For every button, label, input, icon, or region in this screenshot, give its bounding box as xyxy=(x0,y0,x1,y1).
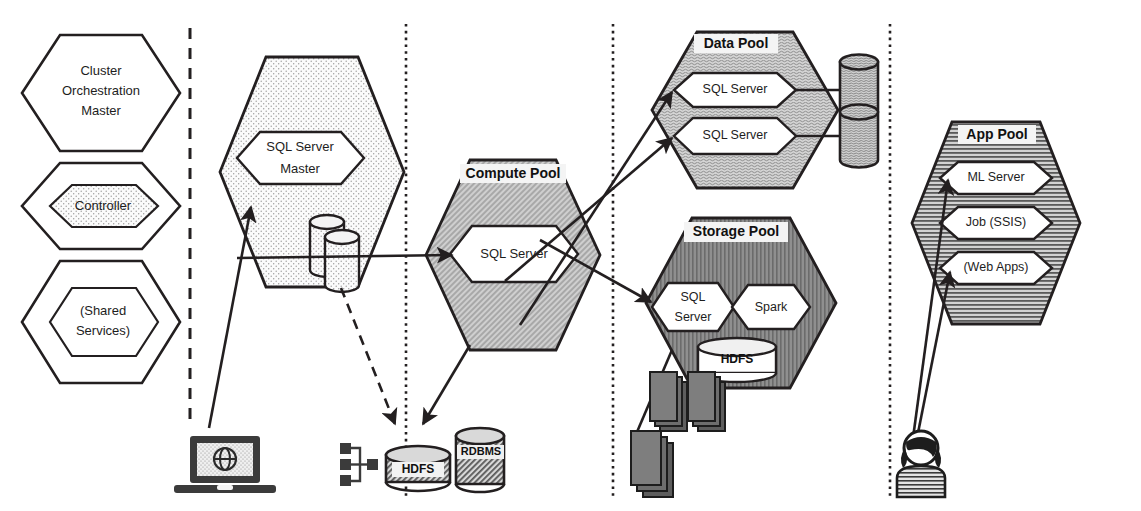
sql-server-master-label-2: Master xyxy=(280,161,320,176)
data-sql-server-2-label: SQL Server xyxy=(703,128,768,142)
network-tree-icon[interactable] xyxy=(340,443,378,486)
server-stack-1[interactable] xyxy=(650,372,687,431)
connection-compute-to-external xyxy=(423,345,470,424)
rdbms-external-label: RDBMS xyxy=(461,445,501,457)
data-sql-server-1-label: SQL Server xyxy=(703,82,768,96)
sidebar-item-controller[interactable]: Controller xyxy=(22,163,180,249)
cluster-orchestration-master-label-2: Orchestration xyxy=(62,83,140,98)
cluster-orchestration-master-label-3: Master xyxy=(81,103,121,118)
hdfs-external-cylinder[interactable]: HDFS xyxy=(386,446,450,491)
storage-pool-title: Storage Pool xyxy=(693,223,779,239)
sql-server-master-label-1: SQL Server xyxy=(266,139,334,154)
controller-label: Controller xyxy=(75,198,132,213)
cluster-orchestration-master-label-1: Cluster xyxy=(80,63,122,78)
connection-laptop-to-master xyxy=(209,207,251,428)
data-pool-title: Data Pool xyxy=(704,35,769,51)
shared-services-label-2: Services) xyxy=(76,323,130,338)
compute-pool-title: Compute Pool xyxy=(466,165,561,181)
connection-master-to-external-store xyxy=(341,288,395,424)
architecture-diagram: Cluster Orchestration Master Controller … xyxy=(0,0,1141,511)
data-cylinder-2 xyxy=(840,105,878,168)
app-pool[interactable]: App Pool ML Server Job (SSIS) (Web Apps) xyxy=(912,122,1080,324)
storage-sql-server-label-1: SQL xyxy=(680,290,705,304)
rdbms-external-cylinder[interactable]: RDBMS xyxy=(456,428,504,492)
data-pool[interactable]: Data Pool SQL Server SQL Server xyxy=(652,32,838,188)
web-apps-label: (Web Apps) xyxy=(963,260,1028,274)
job-ssis-label: Job (SSIS) xyxy=(966,215,1026,229)
ml-server-label: ML Server xyxy=(967,170,1024,184)
hdfs-external-label: HDFS xyxy=(402,462,435,476)
storage-sql-server-label-2: Server xyxy=(675,310,712,324)
laptop-globe-icon[interactable] xyxy=(174,436,276,493)
sidebar-item-cluster-orchestration-master[interactable]: Cluster Orchestration Master xyxy=(22,35,180,151)
user-person-icon[interactable] xyxy=(897,431,945,497)
compute-pool[interactable]: Compute Pool SQL Server xyxy=(426,160,600,350)
app-pool-title: App Pool xyxy=(966,126,1027,142)
connection-user-to-web-apps xyxy=(917,272,950,438)
server-stack-3[interactable] xyxy=(631,431,673,497)
shared-services-label-1: (Shared xyxy=(80,303,126,318)
storage-pool[interactable]: Storage Pool SQL Server Spark HDFS xyxy=(646,218,836,388)
hdfs-cylinder-label: HDFS xyxy=(721,352,754,366)
spark-label: Spark xyxy=(755,300,788,314)
diagram-canvas: Cluster Orchestration Master Controller … xyxy=(0,0,1141,511)
sidebar-item-shared-services[interactable]: (Shared Services) xyxy=(22,261,180,383)
server-stack-2[interactable] xyxy=(688,372,725,431)
